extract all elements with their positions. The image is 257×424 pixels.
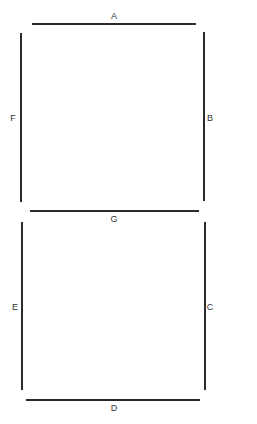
segment-g-label: G: [109, 214, 119, 224]
segment-a-label: A: [109, 11, 119, 21]
segment-d-label: D: [109, 403, 119, 413]
segment-c-label: C: [205, 302, 215, 312]
segment-e-line: [21, 222, 23, 390]
segment-f-line: [20, 33, 22, 202]
segment-g-line: [30, 210, 199, 212]
segment-a-line: [32, 23, 196, 25]
segment-e-label: E: [10, 302, 20, 312]
segment-b-label: B: [205, 113, 215, 123]
segment-d-line: [26, 399, 200, 401]
segment-f-label: F: [8, 113, 18, 123]
